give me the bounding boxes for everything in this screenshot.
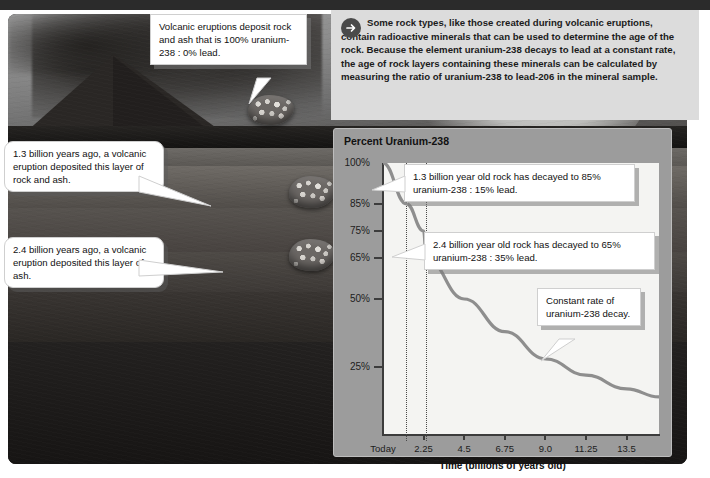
callout-volcanic-eruptions: Volcanic eruptions deposit rock and ash … (150, 14, 307, 65)
header-description-block: Some rock types, like those created duri… (331, 10, 699, 120)
header-paragraph: Some rock types, like those created duri… (341, 16, 687, 84)
y-tick-label: 25% (334, 361, 370, 372)
y-tick-label: 75% (334, 225, 370, 236)
x-tick-label: 11.25 (564, 443, 608, 454)
callout-layer-1-3-billion: 1.3 billion years ago, a volcanic erupti… (4, 141, 164, 192)
y-tick-label: 100% (334, 157, 370, 168)
x-tick-label: 9.0 (523, 443, 567, 454)
x-tick-label: 2.25 (402, 443, 446, 454)
y-tick-mark (374, 298, 382, 300)
y-tick-mark (374, 257, 382, 259)
callout-constant-rate: Constant rate of uranium-238 decay. (537, 288, 641, 326)
arrow-right-circle-icon (341, 18, 361, 38)
callout-85-percent: 1.3 billion year old rock has decayed to… (404, 164, 635, 202)
callout-layer-2-4-billion: 2.4 billion years ago, a volcanic erupti… (4, 237, 164, 288)
x-tick-label: 13.5 (605, 443, 649, 454)
y-tick-label: 85% (334, 198, 370, 209)
chart-title: Percent Uranium-238 (344, 135, 449, 147)
top-divider-rule (0, 0, 710, 10)
y-tick-label: 65% (334, 252, 370, 263)
x-axis-title: Time (billions of years old) (334, 460, 671, 471)
y-tick-mark (374, 230, 382, 232)
y-tick-mark (374, 366, 382, 368)
x-tick-label: 6.75 (483, 443, 527, 454)
page-root: Some rock types, like those created duri… (0, 0, 710, 478)
y-tick-label: 50% (334, 293, 370, 304)
x-tick-label: Today (361, 443, 405, 454)
y-tick-mark (374, 203, 382, 205)
x-tick-label: 4.5 (442, 443, 486, 454)
callout-65-percent: 2.4 billion year old rock has decayed to… (424, 232, 655, 270)
